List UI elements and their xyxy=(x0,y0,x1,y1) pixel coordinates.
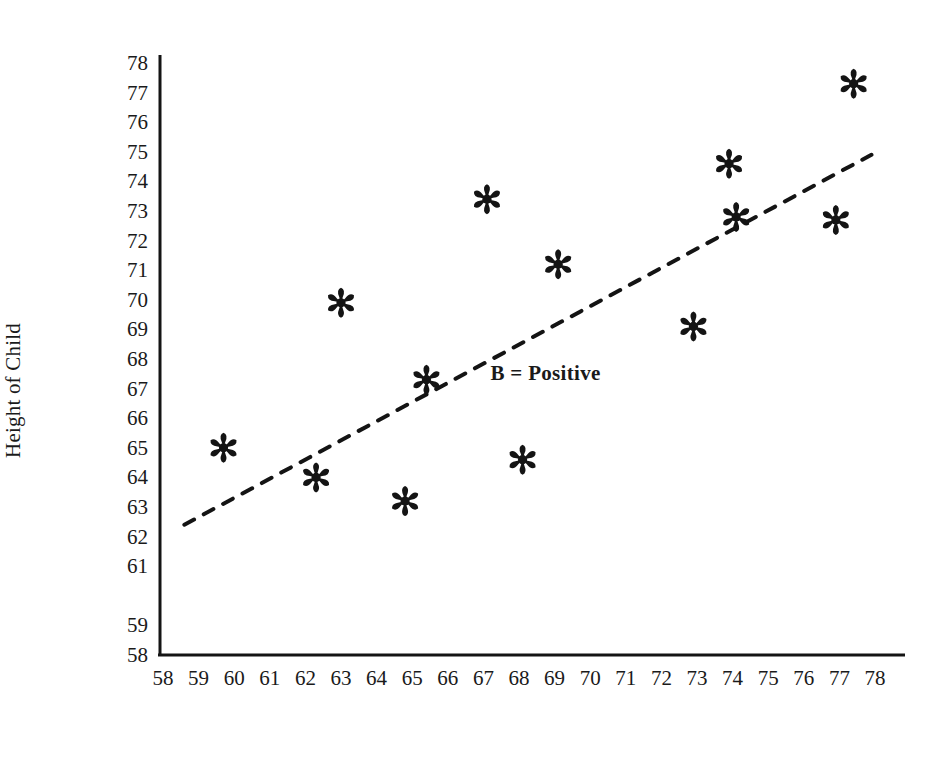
data-point-center xyxy=(732,212,741,221)
plot-annotation-label: B = Positive xyxy=(491,361,601,386)
data-point-center xyxy=(554,260,563,269)
trend-line-segment xyxy=(184,155,871,525)
data-point-center xyxy=(422,375,431,384)
data-points xyxy=(210,69,866,516)
data-point-center xyxy=(311,473,320,482)
data-point-center xyxy=(849,79,858,88)
trend-line xyxy=(184,155,871,525)
plot-area xyxy=(0,0,942,781)
data-point-center xyxy=(400,496,409,505)
data-point-center xyxy=(831,215,840,224)
data-point-center xyxy=(724,159,733,168)
data-point-center xyxy=(518,455,527,464)
data-point-center xyxy=(219,443,228,452)
scatter-chart-figure: Height of Child 787776757473727170696867… xyxy=(0,0,942,781)
axis-lines xyxy=(158,55,905,656)
data-point-center xyxy=(689,322,698,331)
data-point-center xyxy=(336,298,345,307)
data-point-center xyxy=(482,195,491,204)
